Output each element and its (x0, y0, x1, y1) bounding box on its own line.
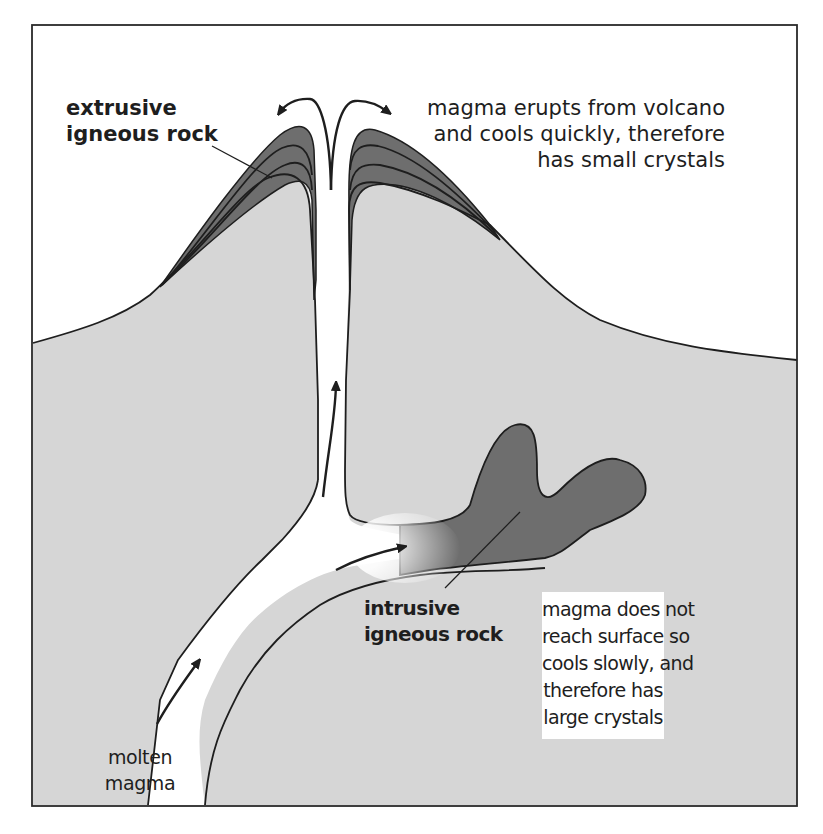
intrusive-note-line1: magma does not (542, 596, 664, 623)
intrusive-label-line1: intrusive (364, 595, 503, 621)
intrusive-rock-label: intrusive igneous rock (364, 595, 503, 647)
intrusive-label-line2: igneous rock (364, 621, 503, 647)
molten-magma-label: molten magma (90, 744, 190, 796)
extrusive-rock-label: extrusive igneous rock (66, 95, 218, 147)
extrusive-note-line1: magma erupts from volcano (427, 95, 725, 121)
extrusive-label-line2: igneous rock (66, 121, 218, 147)
intrusive-note-line3: cools slowly, and (542, 650, 664, 677)
extrusive-note-line3: has small crystals (427, 147, 725, 173)
extrusive-note: magma erupts from volcano and cools quic… (427, 95, 725, 173)
vent-flow-arrow-icon (323, 385, 336, 497)
extrusive-label-line1: extrusive (66, 95, 218, 121)
molten-magma-line1: molten (90, 744, 190, 770)
intrusive-note-line5: large crystals (542, 704, 664, 731)
extrusive-note-line2: and cools quickly, therefore (427, 121, 725, 147)
intrusive-note: magma does not reach surface so cools sl… (542, 596, 664, 731)
intrusive-note-line2: reach surface so (542, 623, 664, 650)
intrusive-note-line4: therefore has (542, 677, 664, 704)
molten-magma-line2: magma (90, 770, 190, 796)
magma-intrusion-fade (350, 513, 460, 583)
